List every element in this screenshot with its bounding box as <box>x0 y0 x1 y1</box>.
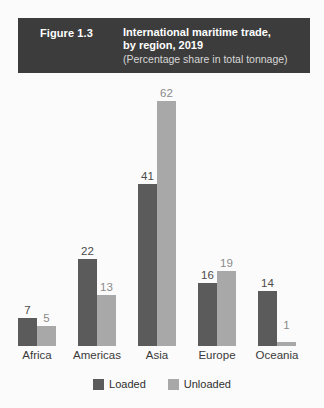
bar-europe-loaded[interactable] <box>198 283 217 346</box>
bar-group-oceania: 14 1 <box>258 73 296 346</box>
bar-group-americas: 22 13 <box>78 73 116 346</box>
chart-plot-area: 7 5 22 13 41 62 16 19 14 1 <box>0 73 324 346</box>
figure-title-line-1: International maritime trade, <box>123 26 303 39</box>
figure-title-block: International maritime trade, by region,… <box>123 26 303 66</box>
legend-item-loaded[interactable]: Loaded <box>93 378 146 390</box>
bar-group-europe: 16 19 <box>198 73 236 346</box>
bar-value-asia-loaded: 41 <box>133 170 163 183</box>
figure-container: Figure 1.3 International maritime trade,… <box>0 0 324 408</box>
bar-value-americas-loaded: 22 <box>73 245 103 258</box>
legend-label-loaded: Loaded <box>109 378 146 390</box>
bar-oceania-unloaded[interactable] <box>277 342 296 346</box>
chart-x-axis-labels: Africa Americas Asia Europe Oceania <box>0 349 324 369</box>
bar-value-africa-unloaded: 5 <box>32 312 62 325</box>
bar-americas-unloaded[interactable] <box>97 295 116 346</box>
legend-swatch-unloaded-icon <box>168 379 179 390</box>
bar-value-asia-unloaded: 62 <box>152 87 182 100</box>
figure-header-banner: Figure 1.3 International maritime trade,… <box>18 18 310 73</box>
figure-title-line-2: by region, 2019 <box>123 39 303 52</box>
legend-label-unloaded: Unloaded <box>184 378 231 390</box>
bar-americas-loaded[interactable] <box>78 259 97 346</box>
bar-value-americas-unloaded: 13 <box>92 281 122 294</box>
bar-asia-unloaded[interactable] <box>157 101 176 346</box>
legend-item-unloaded[interactable]: Unloaded <box>168 378 231 390</box>
bar-group-asia: 41 62 <box>138 73 176 346</box>
bar-value-europe-unloaded: 19 <box>212 257 242 270</box>
chart-legend: Loaded Unloaded <box>0 378 324 390</box>
figure-number-label: Figure 1.3 <box>40 27 93 39</box>
x-axis-label-oceania: Oceania <box>232 349 322 361</box>
bar-europe-unloaded[interactable] <box>217 271 236 346</box>
bar-value-oceania-unloaded: 1 <box>272 319 302 332</box>
bar-value-oceania-loaded: 14 <box>253 277 283 290</box>
bar-group-africa: 7 5 <box>18 73 56 346</box>
figure-subtitle: (Percentage share in total tonnage) <box>123 53 303 66</box>
legend-swatch-loaded-icon <box>93 379 104 390</box>
bar-asia-loaded[interactable] <box>138 184 157 346</box>
bar-value-europe-loaded: 16 <box>193 269 223 282</box>
bar-africa-unloaded[interactable] <box>37 326 56 346</box>
